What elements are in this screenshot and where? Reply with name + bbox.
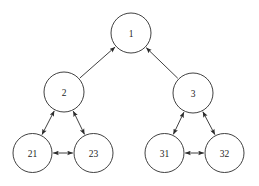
node-31[interactable]: 31 bbox=[145, 134, 184, 173]
edge-3-1 bbox=[146, 48, 178, 79]
node-label-31: 31 bbox=[160, 149, 170, 159]
node-label-2: 2 bbox=[62, 88, 67, 98]
node-21[interactable]: 21 bbox=[13, 134, 52, 173]
node-1[interactable]: 1 bbox=[111, 13, 151, 53]
graph-svg: 12321233132 bbox=[0, 0, 259, 186]
edge-2-1 bbox=[80, 47, 115, 78]
edge-31-3 bbox=[173, 112, 184, 134]
node-label-3: 3 bbox=[191, 89, 196, 99]
diagram-canvas: 12321233132 bbox=[0, 0, 259, 186]
edge-23-2 bbox=[73, 111, 84, 134]
edge-21-2 bbox=[42, 111, 54, 135]
node-label-23: 23 bbox=[89, 149, 99, 159]
node-32[interactable]: 32 bbox=[205, 134, 244, 173]
node-23[interactable]: 23 bbox=[74, 134, 113, 173]
node-2[interactable]: 2 bbox=[44, 72, 84, 112]
node-label-21: 21 bbox=[28, 149, 38, 159]
node-label-1: 1 bbox=[129, 29, 134, 39]
edge-32-3 bbox=[203, 112, 215, 135]
node-label-32: 32 bbox=[220, 149, 230, 159]
node-layer: 12321233132 bbox=[13, 13, 244, 173]
node-3[interactable]: 3 bbox=[173, 73, 213, 113]
